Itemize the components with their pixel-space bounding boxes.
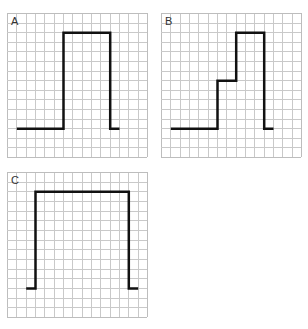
grid-c (7, 172, 148, 318)
panel-a: A (7, 13, 148, 158)
panel-label-a: A (11, 16, 18, 27)
panel-label-b: B (165, 16, 172, 27)
panel-label-c: C (11, 175, 19, 186)
panel-c: C (7, 172, 148, 318)
panel-b: B (161, 13, 302, 158)
grid-a (7, 13, 148, 158)
grid-b (161, 13, 302, 158)
